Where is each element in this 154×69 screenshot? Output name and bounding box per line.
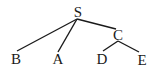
node-A: A — [53, 51, 64, 67]
node-B: B — [11, 51, 21, 67]
tree-diagram: SBACDE — [0, 0, 154, 69]
node-S: S — [74, 4, 82, 20]
edge-S-C — [77, 19, 116, 29]
tree-nodes: SBACDE — [11, 4, 147, 68]
node-C: C — [113, 27, 123, 43]
node-D: D — [97, 51, 108, 67]
node-E: E — [137, 52, 146, 68]
